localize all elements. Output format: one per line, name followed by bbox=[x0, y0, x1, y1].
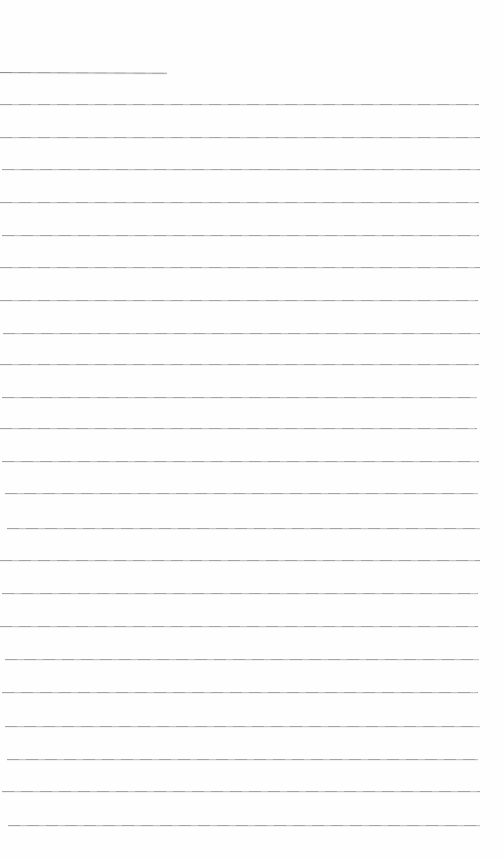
ruled-line bbox=[7, 759, 478, 760]
title-underline-line bbox=[0, 72, 167, 74]
ruled-line bbox=[0, 104, 479, 105]
ruled-line bbox=[0, 626, 478, 627]
ruled-line bbox=[5, 659, 479, 660]
ruled-line bbox=[0, 560, 480, 561]
ruled-line bbox=[2, 593, 478, 594]
ruled-line bbox=[5, 493, 478, 494]
notebook-page bbox=[0, 0, 504, 861]
ruled-line bbox=[2, 461, 479, 462]
ruled-line bbox=[8, 825, 480, 826]
ruled-line bbox=[0, 364, 479, 365]
ruled-line bbox=[2, 791, 480, 792]
ruled-line bbox=[5, 726, 480, 727]
ruled-line bbox=[2, 692, 478, 693]
ruled-line bbox=[2, 235, 479, 236]
ruled-line bbox=[0, 300, 478, 301]
ruled-line bbox=[0, 202, 479, 203]
ruled-line bbox=[0, 267, 480, 268]
ruled-line bbox=[2, 169, 480, 170]
ruled-line bbox=[3, 333, 480, 334]
ruled-line bbox=[0, 428, 477, 429]
ruled-line bbox=[7, 528, 480, 529]
ruled-line bbox=[0, 137, 480, 138]
ruled-line bbox=[2, 397, 477, 398]
